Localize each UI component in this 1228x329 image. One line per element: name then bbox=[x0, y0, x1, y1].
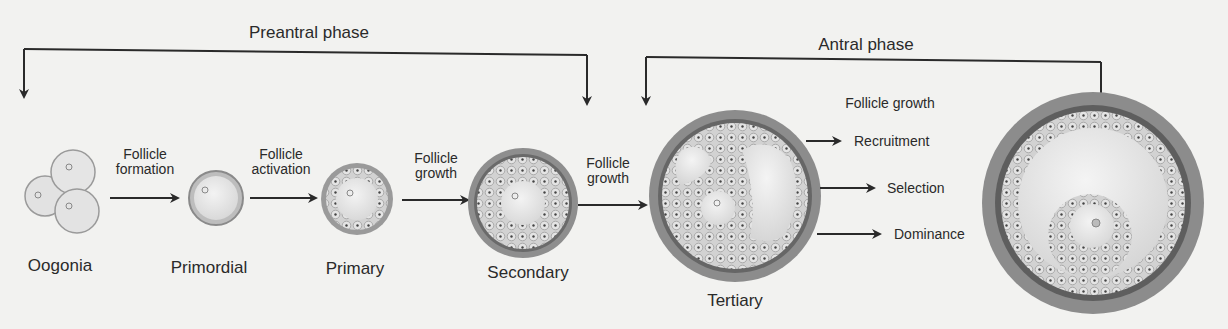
transition-formation-line1: Follicle bbox=[123, 146, 167, 162]
antral-process-title: Follicle growth bbox=[845, 95, 934, 111]
stage-label-primordial: Primordial bbox=[171, 259, 248, 276]
transition-growth2-line1: Follicle bbox=[586, 155, 630, 171]
transition-growth1-line1: Follicle bbox=[414, 150, 458, 166]
step-recruitment: Recruitment bbox=[854, 133, 929, 149]
transition-growth2-line2: growth bbox=[587, 170, 629, 186]
step-dominance: Dominance bbox=[894, 226, 965, 242]
preantral-phase-label: Preantral phase bbox=[249, 24, 369, 41]
stage-label-tertiary: Tertiary bbox=[707, 292, 763, 309]
transition-activation-line1: Follicle bbox=[259, 146, 303, 162]
secondary-follicle-icon bbox=[468, 148, 578, 258]
antral-phase-label: Antral phase bbox=[818, 36, 913, 53]
stage-label-primary: Primary bbox=[326, 260, 385, 277]
primordial-follicle-icon bbox=[189, 171, 243, 225]
transition-growth1-line2: growth bbox=[415, 165, 457, 181]
preantral-bracket bbox=[24, 49, 587, 104]
oogonia-cells-icon bbox=[25, 150, 99, 233]
follicle-development-diagram: Preantral phase Antral phase Follicle fo… bbox=[0, 0, 1228, 329]
stage-label-oogonia: Oogonia bbox=[28, 257, 92, 274]
primary-follicle-icon bbox=[321, 163, 393, 235]
step-selection: Selection bbox=[887, 180, 945, 196]
stage-label-secondary: Secondary bbox=[487, 264, 568, 281]
tertiary-follicle-icon bbox=[649, 110, 821, 282]
transition-formation-line2: formation bbox=[116, 161, 174, 177]
transition-activation-line2: activation bbox=[251, 161, 310, 177]
dominant-follicle-icon bbox=[982, 92, 1204, 314]
